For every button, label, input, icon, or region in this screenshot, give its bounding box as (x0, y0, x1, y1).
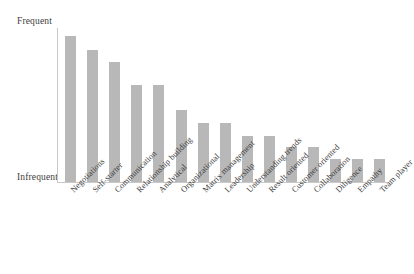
bar (87, 50, 98, 182)
bars-layer (57, 28, 389, 182)
bar (286, 147, 297, 182)
bar (153, 85, 164, 182)
bar (308, 147, 319, 182)
y-axis-top-anchor-label: Frequent (17, 16, 52, 26)
bar (330, 159, 341, 182)
bar (352, 159, 363, 182)
bar (176, 110, 187, 182)
plot-area (57, 28, 389, 182)
y-axis-bottom-anchor-label: Infrequent (17, 172, 58, 182)
bar (198, 123, 209, 182)
bar (65, 36, 76, 182)
x-axis-line (57, 182, 389, 183)
bar (264, 136, 275, 182)
bar (374, 159, 385, 182)
bar (109, 62, 120, 182)
bar (131, 85, 142, 182)
bar (242, 136, 253, 182)
bar (220, 123, 231, 182)
